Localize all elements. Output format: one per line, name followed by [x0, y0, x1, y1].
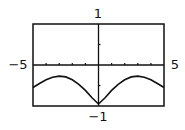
- x-min-label: −5: [8, 57, 27, 72]
- graph-window: 1 −1 −5 5: [0, 0, 185, 130]
- x-max-label: 5: [171, 57, 179, 72]
- y-max-label: 1: [94, 6, 102, 21]
- y-min-label: −1: [88, 109, 107, 124]
